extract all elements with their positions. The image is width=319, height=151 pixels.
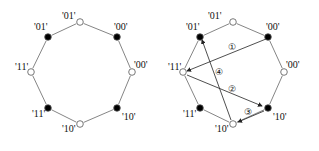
filled-constellation-point	[265, 105, 272, 112]
octagon-edge	[84, 24, 114, 36]
filled-constellation-point	[45, 105, 52, 112]
point-bit-label: '01'	[34, 21, 48, 32]
octagon-edge	[84, 110, 114, 123]
octagon-edge	[119, 76, 131, 105]
point-bit-label: '11'	[15, 61, 28, 72]
open-constellation-point	[230, 121, 237, 128]
left-octagon-diagram: '01''01''11''11''10''10''00''00'	[15, 10, 148, 134]
transition-arrow-1	[187, 39, 266, 71]
point-bit-label: '01'	[186, 21, 200, 32]
octagon-edge	[185, 41, 199, 69]
point-bit-label: '11'	[168, 61, 181, 72]
step-number-label: ②	[228, 84, 236, 94]
point-bit-label: '00'	[134, 59, 148, 70]
point-bit-label: '10'	[62, 123, 76, 134]
step-number-label: ③	[244, 107, 252, 117]
open-constellation-point	[230, 19, 237, 26]
octagon-edge	[52, 110, 77, 122]
transition-arrow-4	[202, 40, 231, 120]
octagon-edge	[204, 24, 230, 36]
point-bit-label: '00'	[286, 59, 300, 70]
octagon-edge	[270, 76, 283, 105]
point-bit-label: '00'	[266, 21, 280, 32]
step-number-label: ①	[228, 42, 236, 52]
octagon-edge	[33, 76, 47, 105]
octagon-edge	[204, 110, 230, 123]
filled-constellation-point	[114, 105, 121, 112]
filled-constellation-point	[197, 105, 204, 112]
point-bit-label: '01'	[62, 10, 76, 21]
constellation-diagrams: '01''01''11''11''10''10''00''00' ①②③④'01…	[0, 0, 319, 151]
filled-constellation-point	[45, 34, 52, 41]
filled-constellation-point	[114, 34, 121, 41]
point-bit-label: '00'	[114, 21, 128, 32]
point-bit-label: '10'	[122, 111, 136, 122]
octagon-edge	[270, 41, 283, 69]
point-bit-label: '11'	[183, 108, 196, 119]
octagon-edge	[52, 24, 77, 36]
octagon-edge	[185, 76, 199, 105]
step-number-label: ④	[215, 67, 223, 77]
octagon-edge	[237, 24, 265, 36]
point-bit-label: '10'	[215, 123, 229, 134]
open-constellation-point	[77, 19, 84, 26]
open-constellation-point	[77, 121, 84, 128]
octagon-edge	[33, 41, 47, 69]
filled-constellation-point	[265, 34, 272, 41]
right-octagon-diagram-with-transitions: ①②③④'01''01''11''11''10''10''00''00'	[168, 10, 300, 134]
point-bit-label: '10'	[273, 111, 287, 122]
filled-constellation-point	[197, 34, 204, 41]
octagon-edge	[119, 41, 131, 69]
open-constellation-point	[28, 69, 35, 76]
point-bit-label: '01'	[208, 10, 222, 21]
point-bit-label: '11'	[32, 108, 45, 119]
